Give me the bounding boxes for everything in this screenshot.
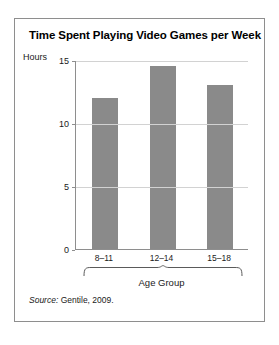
x-tick-label: 15–18 (207, 253, 231, 263)
y-tick-mark (72, 61, 75, 62)
y-tick-label: 15 (59, 56, 69, 66)
source-text: Gentile, 2009. (61, 295, 114, 305)
age-group-brace (83, 265, 243, 277)
x-axis-label: Age Group (75, 277, 248, 288)
y-axis-label: Hours (23, 52, 47, 62)
y-tick-mark (72, 250, 75, 251)
chart-plot: Hours 051015 8–1112–1415–18 Age Group (15, 19, 264, 321)
gridline (76, 61, 248, 62)
y-tick-mark (72, 187, 75, 188)
bar (150, 66, 176, 249)
y-tick-mark (72, 124, 75, 125)
bars-layer (76, 61, 248, 249)
x-tick-label: 12–14 (150, 253, 174, 263)
x-tick-label: 8–11 (95, 253, 113, 263)
bar (207, 85, 233, 249)
source-note: Source: Gentile, 2009. (29, 295, 114, 305)
gridline (76, 187, 248, 188)
y-tick-label: 0 (64, 245, 69, 255)
source-prefix: Source: (29, 295, 58, 305)
plot-area (75, 61, 248, 250)
bar (92, 98, 118, 249)
y-tick-label: 10 (59, 119, 69, 129)
y-tick-label: 5 (64, 182, 69, 192)
figure-frame: Time Spent Playing Video Games per Week … (14, 18, 265, 322)
gridline (76, 124, 248, 125)
